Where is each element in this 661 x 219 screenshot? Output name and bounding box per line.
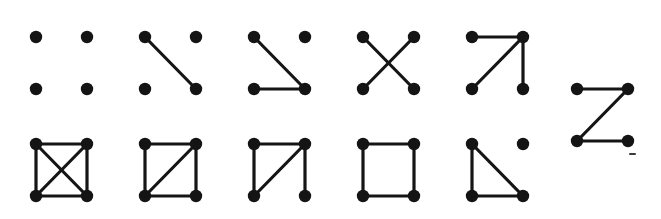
graph-vertex-bottom-right xyxy=(190,190,202,202)
graph-figure-canvas xyxy=(0,0,661,219)
graph-vertex-bottom-right xyxy=(299,83,311,95)
graph-vertex-bottom-right xyxy=(299,190,311,202)
graph-edge-bl-tr xyxy=(145,144,196,196)
graph-vertex-top-left xyxy=(30,138,42,150)
graph-edge-tr-bl xyxy=(577,89,628,141)
graph-vertex-bottom-right xyxy=(517,83,529,95)
graph-vertex-top-left xyxy=(466,31,478,43)
graph-edge-tl-br xyxy=(145,37,196,89)
graph-perfect-matching xyxy=(357,31,420,95)
graph-vertex-top-left xyxy=(357,31,369,43)
graph-star-k13 xyxy=(466,31,529,95)
graph-single-edge xyxy=(139,31,202,95)
graph-vertex-bottom-left xyxy=(571,135,583,147)
graph-vertex-top-right xyxy=(517,31,529,43)
graph-path-p3-plus-isolated-vertex xyxy=(248,31,311,95)
graph-edge-tl-br xyxy=(472,144,523,196)
graph-vertex-bottom-left xyxy=(248,83,260,95)
graph-vertex-bottom-right xyxy=(190,83,202,95)
scan-speck xyxy=(629,153,636,155)
graph-vertex-top-right xyxy=(81,31,93,43)
graph-vertex-top-left xyxy=(466,138,478,150)
graph-vertex-bottom-left xyxy=(357,190,369,202)
graph-vertex-top-right xyxy=(299,138,311,150)
graph-vertex-bottom-left xyxy=(139,190,151,202)
graph-complete-graph-k4 xyxy=(30,138,93,202)
graph-vertex-top-left xyxy=(139,31,151,43)
graph-vertex-top-right xyxy=(299,31,311,43)
graph-vertex-top-left xyxy=(139,138,151,150)
graph-path-p4 xyxy=(571,83,634,147)
graph-vertex-top-right xyxy=(190,31,202,43)
graph-vertex-bottom-right xyxy=(81,83,93,95)
graph-vertex-bottom-left xyxy=(30,83,42,95)
graph-cycle-c4 xyxy=(357,138,420,202)
graph-vertex-bottom-right xyxy=(622,135,634,147)
graph-vertex-top-right xyxy=(408,31,420,43)
graph-vertex-bottom-right xyxy=(408,190,420,202)
graph-vertex-bottom-right xyxy=(81,190,93,202)
graph-vertex-top-left xyxy=(357,138,369,150)
graph-vertex-bottom-right xyxy=(517,190,529,202)
graph-edge-tl-br xyxy=(254,37,305,89)
graph-vertex-bottom-left xyxy=(30,190,42,202)
graph-vertex-top-left xyxy=(248,31,260,43)
graph-vertex-top-left xyxy=(248,138,260,150)
graph-triangle-plus-isolated-vertex xyxy=(466,138,529,202)
graph-vertex-bottom-left xyxy=(248,190,260,202)
graph-vertex-top-left xyxy=(571,83,583,95)
graph-vertex-bottom-right xyxy=(408,83,420,95)
graph-vertex-top-right xyxy=(622,83,634,95)
graph-vertex-bottom-left xyxy=(466,190,478,202)
graph-vertex-top-right xyxy=(81,138,93,150)
graph-edge-tr-bl xyxy=(472,37,523,89)
graph-empty-graph xyxy=(30,31,93,95)
graph-vertex-top-right xyxy=(190,138,202,150)
graph-vertex-top-right xyxy=(517,138,529,150)
graph-vertex-bottom-left xyxy=(139,83,151,95)
graph-figure-svg xyxy=(0,0,661,219)
graph-k4-minus-one-edge xyxy=(139,138,202,202)
graph-edge-bl-tr xyxy=(254,144,305,196)
graph-triangle-with-pendant xyxy=(248,138,311,202)
graph-vertex-top-left xyxy=(30,31,42,43)
graph-vertex-bottom-left xyxy=(357,83,369,95)
graph-vertex-bottom-left xyxy=(466,83,478,95)
graph-vertex-top-right xyxy=(408,138,420,150)
